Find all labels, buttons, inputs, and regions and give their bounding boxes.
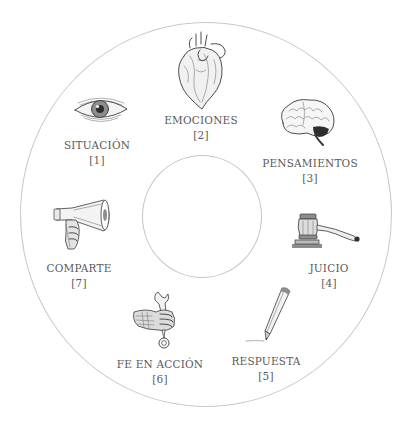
step-number: [5] (206, 369, 326, 384)
step-label: SITUACIÓN (37, 138, 157, 153)
step-fe-en-accion: FE EN ACCIÓN [6] (100, 357, 220, 387)
step-number: [7] (19, 276, 139, 291)
step-label: PENSAMIENTOS (250, 156, 370, 171)
hand-wrench-icon (128, 290, 186, 352)
step-situacion: SITUACIÓN [1] (37, 138, 157, 168)
step-label: FE EN ACCIÓN (100, 357, 220, 372)
brain-icon (277, 97, 337, 147)
step-label: JUICIO (269, 261, 389, 276)
gavel-icon (290, 208, 362, 250)
step-number: [1] (37, 153, 157, 168)
step-pensamientos: PENSAMIENTOS [3] (250, 156, 370, 186)
step-number: [3] (250, 171, 370, 186)
step-respuesta: RESPUESTA [5] (206, 354, 326, 384)
eye-icon (72, 94, 130, 124)
step-label: RESPUESTA (206, 354, 326, 369)
step-number: [6] (100, 372, 220, 387)
step-number: [2] (141, 128, 261, 143)
pencil-icon (244, 286, 294, 346)
inner-ring (142, 155, 262, 278)
heart-icon (174, 30, 230, 110)
step-label: EMOCIONES (141, 113, 261, 128)
cycle-diagram: SITUACIÓN [1] EMOCIONES [2] (0, 0, 411, 425)
megaphone-icon (52, 197, 114, 253)
step-comparte: COMPARTE [7] (19, 261, 139, 291)
step-emociones: EMOCIONES [2] (141, 113, 261, 143)
step-label: COMPARTE (19, 261, 139, 276)
